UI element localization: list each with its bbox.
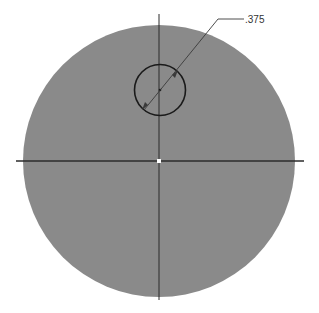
center-point-marker — [157, 159, 161, 163]
diameter-dimension-label: .375 — [245, 14, 265, 25]
drawing-canvas: .375 — [0, 0, 319, 313]
